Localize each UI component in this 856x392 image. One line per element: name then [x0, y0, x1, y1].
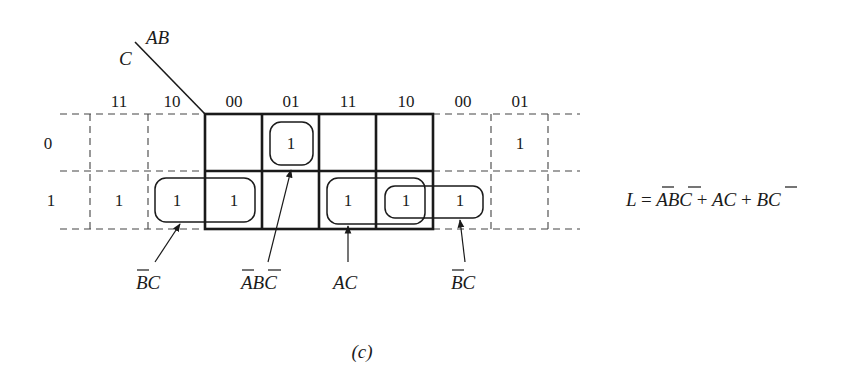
group-labels: BC ABC AC BC: [136, 270, 476, 293]
kmap-main-grid: [205, 114, 433, 229]
cell-r1-10: 1: [402, 191, 411, 210]
col-header-01: 01: [283, 92, 300, 111]
arrow-abc: [268, 170, 291, 262]
svg-text:L = ABC +: L = ABC + AC + BC: [625, 189, 781, 210]
annotation-arrows: [155, 170, 465, 262]
cell-r1-ext-11: 1: [115, 191, 124, 210]
arrow-bc-right: [460, 220, 465, 262]
figure-caption: (c): [351, 341, 372, 363]
col-header-ext-00: 00: [455, 92, 472, 111]
cell-r0-01: 1: [287, 134, 296, 153]
label-abc: ABC: [239, 270, 281, 293]
label-ac: AC: [331, 272, 358, 293]
row-header-1: 1: [47, 191, 56, 210]
svg-text:ABC: ABC: [239, 272, 277, 293]
col-header-ext-01: 01: [512, 92, 529, 111]
label-bc-left: BC: [136, 270, 161, 293]
bar-b: B: [136, 272, 148, 293]
column-headers: 11 10 00 01 11 10 00 01: [111, 92, 529, 111]
col-header-ext-11: 11: [111, 92, 127, 111]
karnaugh-map-diagram: AB C 11 10 00 01 11 10 00 01 0 1: [0, 0, 856, 392]
col-header-ext-10: 10: [164, 92, 181, 111]
equation: L = ABC + AC + BC: [625, 187, 797, 210]
row-header-0: 0: [44, 134, 53, 153]
cell-r1-ext-00: 1: [456, 191, 465, 210]
col-header-11: 11: [340, 92, 356, 111]
col-header-00: 00: [226, 92, 243, 111]
cell-r1-00: 1: [230, 191, 239, 210]
corner-label: AB C: [119, 27, 205, 114]
cell-r1-11: 1: [344, 191, 353, 210]
row-headers: 0 1: [44, 134, 56, 210]
svg-text:BC: BC: [451, 272, 476, 293]
svg-text:BC: BC: [136, 272, 161, 293]
col-var-label: AB: [144, 27, 170, 48]
cell-r0-ext-01: 1: [516, 134, 525, 153]
arrow-bc-left: [155, 224, 180, 262]
col-header-10: 10: [398, 92, 415, 111]
row-var-label: C: [119, 48, 132, 69]
label-bc-right: BC: [451, 270, 476, 293]
cell-r1-ext-10: 1: [173, 191, 182, 210]
